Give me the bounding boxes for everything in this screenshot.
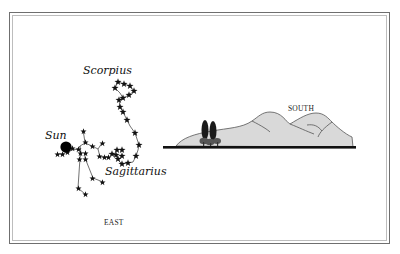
south-label: SOUTH: [288, 104, 314, 113]
sun-icon: [60, 141, 71, 152]
sky-diagram: Scorpius Sun Sagittarius SOUTH EAST: [0, 0, 400, 254]
landscape: [163, 112, 356, 149]
scorpius-constellation: [108, 78, 142, 167]
sagittarius-label: Sagittarius: [105, 165, 167, 178]
east-label: EAST: [104, 218, 124, 227]
diagram-canvas: Scorpius Sun Sagittarius SOUTH EAST: [0, 0, 400, 254]
horizon-line: [163, 146, 356, 149]
scorpius-stars: [108, 78, 142, 167]
scorpius-label: Scorpius: [83, 64, 132, 77]
sun-label: Sun: [45, 129, 67, 142]
